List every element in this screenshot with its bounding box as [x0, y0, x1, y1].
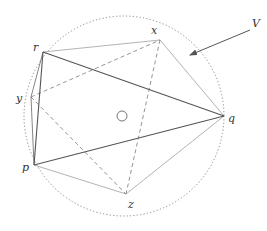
edge-y-p	[31, 97, 34, 165]
edge-q-z	[126, 116, 224, 194]
point-label-r: r	[33, 42, 38, 53]
point-label-q: q	[228, 113, 235, 124]
edge-p-q	[34, 116, 224, 165]
dark-edges	[34, 52, 224, 165]
point-label-p: p	[22, 162, 29, 173]
point-label-z: z	[128, 199, 134, 210]
diagram-canvas	[0, 0, 267, 231]
point-label-x: x	[151, 25, 157, 36]
arrow-label-v: V	[252, 18, 260, 29]
edge-r-x	[43, 40, 160, 52]
circumscribed-circle	[24, 16, 224, 216]
light-edges	[34, 40, 224, 194]
center-marker-icon	[117, 111, 127, 121]
dashed-edges	[31, 40, 160, 194]
velocity-arrow	[190, 30, 250, 55]
point-label-y: y	[16, 93, 22, 104]
